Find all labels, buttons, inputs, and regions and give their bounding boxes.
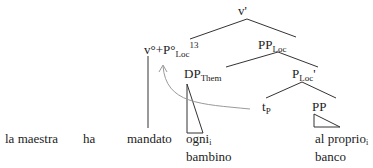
word-ogni: ognii	[186, 131, 211, 151]
word-la-maestra: la maestra	[5, 131, 58, 147]
node-p-loc-bar: PLoc'	[292, 67, 316, 85]
branch-vbar-pploc	[247, 19, 296, 37]
word-bambino: bambino	[186, 149, 232, 165]
node-vbar: v'	[238, 4, 247, 18]
word-mandato: mandato	[127, 131, 172, 147]
word-ha: ha	[83, 131, 95, 147]
dp-them-triangle	[187, 84, 203, 133]
pp-triangle	[314, 114, 340, 127]
word-al-proprio: al proprioi	[315, 131, 368, 151]
node-trace: tP	[262, 100, 271, 118]
word-banco: banco	[315, 149, 346, 165]
node-pp: PP	[312, 100, 326, 114]
branch-vbar-head	[190, 19, 247, 39]
node-dp-them: DPThem	[184, 67, 222, 85]
node-pp-loc: PPLoc	[258, 38, 286, 56]
node-head: v°+P°Loc13	[144, 38, 198, 61]
